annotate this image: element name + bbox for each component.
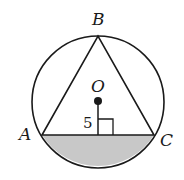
center-point bbox=[94, 97, 102, 105]
label-a: A bbox=[17, 124, 31, 144]
label-distance-5: 5 bbox=[83, 114, 93, 132]
label-c: C bbox=[160, 130, 173, 150]
diagram-canvas: B O A C 5 bbox=[0, 0, 184, 180]
label-o: O bbox=[91, 76, 105, 96]
right-angle-marker bbox=[98, 119, 113, 135]
shaded-segment bbox=[42, 135, 154, 166]
label-b: B bbox=[91, 9, 105, 29]
